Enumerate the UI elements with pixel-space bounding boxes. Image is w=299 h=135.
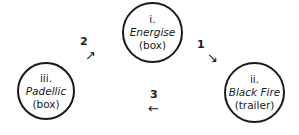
node-numeral: iii. [40,72,52,85]
arrow-left-icon: ← [148,101,159,116]
node-title: Black Fire [229,86,280,99]
node-numeral: ii. [250,73,259,86]
edge-label-2: 2 [80,35,88,48]
node-kind: (box) [32,98,59,111]
node-energise: i. Energise (box) [122,2,183,63]
node-kind: (trailer) [235,99,275,112]
node-title: Padellic [26,85,66,98]
node-title: Energise [130,26,176,39]
edge-label-3: 3 [150,88,158,101]
edge-label-1: 1 [197,38,205,51]
arrow-down-right-icon: ↘ [207,50,218,65]
node-kind: (box) [139,39,166,52]
node-black-fire: ii. Black Fire (trailer) [224,62,285,123]
node-numeral: i. [149,13,155,26]
node-padellic: iii. Padellic (box) [17,62,75,120]
arrow-up-right-icon: ↗ [85,48,96,63]
